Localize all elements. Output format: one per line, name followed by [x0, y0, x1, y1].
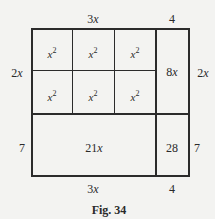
divider-v3 — [155, 28, 157, 177]
divider-h2 — [31, 113, 190, 115]
figure-caption: Fig. 34 — [92, 204, 127, 216]
right-label-7: 7 — [194, 142, 200, 154]
bottom-label-4: 4 — [169, 183, 175, 195]
right-label-2x: 2x — [197, 67, 208, 79]
outer-top-border — [31, 28, 190, 30]
cell-x2: x2 — [131, 45, 140, 60]
divider-v1 — [72, 28, 73, 114]
divider-v2 — [114, 28, 115, 114]
top-label-3x: 3x — [87, 13, 98, 25]
bottom-label-3x: 3x — [87, 183, 98, 195]
outer-left-border — [31, 28, 33, 177]
left-label-2x: 2x — [11, 67, 22, 79]
cell-x2: x2 — [89, 88, 98, 103]
outer-bottom-border — [31, 175, 190, 177]
cell-x2: x2 — [131, 88, 140, 103]
cell-21x: 21x — [85, 142, 102, 154]
cell-x2: x2 — [89, 45, 98, 60]
cell-x2: x2 — [48, 45, 57, 60]
left-label-7: 7 — [19, 142, 25, 154]
outer-right-border — [188, 28, 190, 177]
cell-x2: x2 — [48, 88, 57, 103]
top-label-4: 4 — [169, 13, 175, 25]
cell-8x: 8x — [166, 66, 177, 78]
cell-28: 28 — [166, 142, 178, 154]
divider-h1 — [31, 70, 156, 71]
